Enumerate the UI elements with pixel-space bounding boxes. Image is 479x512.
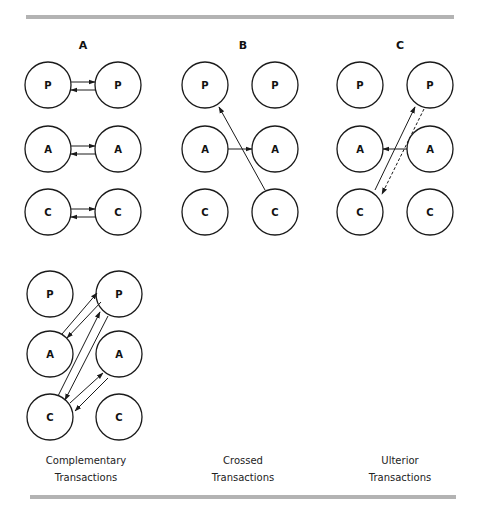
panel-c-heading: C xyxy=(396,39,404,52)
ego-label: P xyxy=(114,80,121,91)
ego-label: A xyxy=(115,349,123,360)
ego-label: P xyxy=(44,80,51,91)
ego-label: A xyxy=(114,144,122,155)
transactions-diagram: A B C P P A A C C P P A A C C xyxy=(0,0,479,512)
ego-label: P xyxy=(201,80,208,91)
ego-label: C xyxy=(44,207,51,218)
ego-label: P xyxy=(115,289,122,300)
ego-label: A xyxy=(46,349,54,360)
panel-b-crossed: P P A A C C xyxy=(182,62,298,235)
ego-label: C xyxy=(271,207,278,218)
ego-label: A xyxy=(201,144,209,155)
ego-label: A xyxy=(271,144,279,155)
top-rule xyxy=(26,15,454,19)
ego-label: C xyxy=(201,207,208,218)
ego-label: C xyxy=(114,207,121,218)
panel-a-complementary: P P A A C C xyxy=(25,62,141,235)
ego-label: C xyxy=(115,412,122,423)
caption-ulterior-line2: Transactions xyxy=(368,472,431,483)
ego-label: P xyxy=(46,289,53,300)
caption-complementary-line2: Transactions xyxy=(54,472,117,483)
ego-label: C xyxy=(46,412,53,423)
panel-a-heading: A xyxy=(79,39,88,52)
caption-crossed-line1: Crossed xyxy=(223,455,263,466)
caption-complementary-line1: Complementary xyxy=(46,455,127,466)
ego-label: P xyxy=(271,80,278,91)
ego-label: P xyxy=(426,80,433,91)
ego-label: A xyxy=(356,144,364,155)
caption-ulterior-line1: Ulterior xyxy=(381,455,419,466)
panel-complementary-example: P P A A C C xyxy=(27,271,142,440)
panel-c-ulterior: P P A A C C xyxy=(337,62,453,235)
ego-label: A xyxy=(44,144,52,155)
caption-crossed-line2: Transactions xyxy=(211,472,274,483)
ego-label: A xyxy=(426,144,434,155)
ego-label: C xyxy=(356,207,363,218)
bottom-rule xyxy=(30,495,456,499)
panel-b-heading: B xyxy=(239,39,247,52)
ego-label: C xyxy=(426,207,433,218)
ego-label: P xyxy=(356,80,363,91)
